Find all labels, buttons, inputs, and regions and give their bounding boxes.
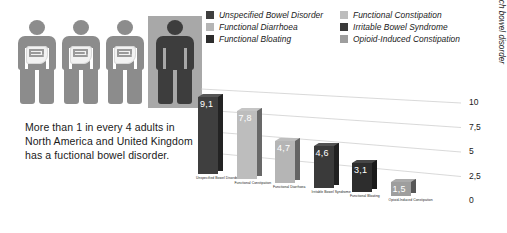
x-axis-category-label: Functional Diarrhoea <box>273 185 305 189</box>
legend-swatch-icon <box>206 11 214 19</box>
person-arm-gap-left <box>163 48 166 70</box>
legend-label: Opioid-Induced Constipation <box>353 34 460 44</box>
bar[interactable]: 9,1 <box>198 97 218 174</box>
intestine-icon <box>114 46 136 64</box>
legend-label: Unspecified Bowel Disorder <box>219 10 323 20</box>
intestine-icon <box>26 46 48 64</box>
bar-value-label: 4,7 <box>277 143 290 153</box>
legend-item: Functional Diarrhoea <box>206 21 323 32</box>
bar-side <box>295 138 300 180</box>
bar-side <box>372 160 377 189</box>
bar-group[interactable]: 9,1 <box>198 97 224 174</box>
bar-top <box>237 108 262 111</box>
legend-swatch-icon <box>206 35 214 43</box>
person-leg-right <box>177 69 192 104</box>
bar-side <box>334 143 339 185</box>
x-axis-category-label: Opioid-Induced Constipation <box>389 198 433 202</box>
person-figure-4-highlighted <box>156 20 194 104</box>
person-figure-3 <box>106 20 144 104</box>
bar-top <box>391 179 416 182</box>
bar-group[interactable]: 4,6 <box>314 146 340 188</box>
person-leg-left <box>20 69 35 104</box>
person-torso <box>156 36 194 70</box>
bar-side <box>218 94 223 171</box>
bar-side <box>257 108 262 176</box>
legend-swatch-icon <box>340 23 348 31</box>
bar[interactable]: 4,7 <box>275 141 295 183</box>
legend-item: Opioid-Induced Constipation <box>340 33 460 44</box>
intestine-icon <box>70 46 92 64</box>
bar-group[interactable]: 7,8 <box>237 111 263 179</box>
legend-item: Unspecified Bowel Disorder <box>206 9 323 20</box>
bar-value-label: 1,5 <box>393 184 406 194</box>
bar-group[interactable]: 3,1 <box>352 163 378 192</box>
legend-column-1: Unspecified Bowel Disorder Functional Di… <box>206 9 323 45</box>
x-axis-category-label: Functional Bloating <box>350 194 380 198</box>
legend-swatch-icon <box>340 35 348 43</box>
bar-value-label: 7,8 <box>239 113 252 123</box>
bar-value-label: 3,1 <box>354 165 367 175</box>
legend-item: Irritable Bowel Syndrome <box>340 21 460 32</box>
left-panel: More than 1 in every 4 adults in North A… <box>0 0 196 233</box>
bar[interactable]: 4,6 <box>314 146 334 188</box>
person-head-icon <box>73 20 89 35</box>
person-leg-left <box>64 69 79 104</box>
bar-group[interactable]: 1,5 <box>391 182 417 196</box>
person-leg-right <box>83 69 98 104</box>
x-axis-category-label: Functional Constipation <box>235 181 272 185</box>
person-figure-2 <box>62 20 100 104</box>
person-head-icon <box>117 20 133 35</box>
person-head-icon <box>29 20 45 35</box>
legend-column-2: Functional Constipation Irritable Bowel … <box>340 9 460 45</box>
bar-chart: 9,1Unspecified Bowel Disorder7,8Function… <box>196 46 507 233</box>
bar-group[interactable]: 4,7 <box>275 141 301 183</box>
person-leg-right <box>127 69 142 104</box>
caption-text: More than 1 in every 4 adults in North A… <box>25 120 193 162</box>
y-axis-tick-label: 10 <box>469 97 478 107</box>
legend-item: Functional Bloating <box>206 33 323 44</box>
legend-label: Functional Diarrhoea <box>219 22 298 32</box>
legend-label: Functional Bloating <box>219 34 291 44</box>
legend-swatch-icon <box>340 11 348 19</box>
person-leg-left <box>108 69 123 104</box>
y-axis-tick-label: 2,5 <box>469 171 481 181</box>
legend-label: Functional Constipation <box>353 10 442 20</box>
bar[interactable]: 3,1 <box>352 163 372 192</box>
person-leg-left <box>158 69 173 104</box>
bar[interactable]: 1,5 <box>391 182 411 196</box>
legend-item: Functional Constipation <box>340 9 460 20</box>
x-axis-category-label: Unspecified Bowel Disorder <box>196 176 239 180</box>
person-figure-1 <box>18 20 56 104</box>
infographic-root: More than 1 in every 4 adults in North A… <box>0 0 507 233</box>
y-axis-tick-label: 5 <box>469 146 474 156</box>
bar-value-label: 9,1 <box>200 99 213 109</box>
legend-label: Irritable Bowel Syndrome <box>353 22 448 32</box>
y-axis-tick-label: 0 <box>469 195 474 205</box>
chart-bars: 9,1Unspecified Bowel Disorder7,8Function… <box>196 46 507 233</box>
chart-legend: Unspecified Bowel Disorder Functional Di… <box>206 9 502 43</box>
x-axis-category-label: Irritable Bowel Syndrome <box>312 190 351 194</box>
person-leg-right <box>39 69 54 104</box>
y-axis-tick-label: 7,5 <box>469 122 481 132</box>
person-arm-gap-right <box>184 48 187 70</box>
y-axis-title: % of adults with each bowel disorder <box>497 0 506 64</box>
bar-value-label: 4,6 <box>316 148 329 158</box>
bar[interactable]: 7,8 <box>237 111 257 179</box>
legend-swatch-icon <box>206 23 214 31</box>
people-pictogram <box>18 16 194 108</box>
person-head-icon <box>167 20 183 35</box>
bar-top <box>314 143 339 146</box>
